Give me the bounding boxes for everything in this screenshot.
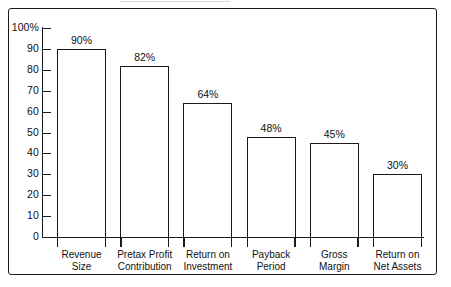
bar-value-label: 48% <box>247 123 296 134</box>
y-axis-tick <box>43 174 51 175</box>
y-axis-tick <box>43 70 51 71</box>
category-divider-tick <box>120 237 121 247</box>
category-label-line: Period <box>239 261 304 273</box>
bar-value-label: 45% <box>310 129 359 140</box>
y-axis-tick <box>43 112 51 113</box>
category-divider-tick <box>105 237 106 247</box>
category-label: RevenueSize <box>49 249 114 273</box>
category-divider-tick <box>231 237 232 247</box>
x-axis-line <box>42 237 424 238</box>
y-axis-tick-label-text: 100% <box>12 22 39 32</box>
category-label-line: Gross <box>302 249 367 261</box>
category-divider-tick <box>310 237 311 247</box>
y-axis-tick <box>43 216 51 217</box>
bar <box>373 174 422 237</box>
y-axis-tick-label-text: 80 <box>27 64 39 74</box>
y-axis-tick <box>43 153 51 154</box>
chart-screenshot: 0102030405060708090100% 90%82%64%48%45%3… <box>0 0 451 287</box>
category-label-line: Payback <box>239 249 304 261</box>
bar <box>183 103 232 237</box>
bar-value-label: 90% <box>57 35 106 46</box>
category-label: Return onNet Assets <box>365 249 430 273</box>
category-divider-tick <box>421 237 422 247</box>
bar <box>310 143 359 237</box>
category-label-line: Revenue <box>49 249 114 261</box>
bar <box>120 66 169 237</box>
category-label-line: Return on <box>175 249 240 261</box>
y-axis-tick <box>43 91 51 92</box>
y-axis-tick-label-text: 10 <box>27 210 39 220</box>
category-label-line: Size <box>49 261 114 273</box>
bar-value-label: 82% <box>120 52 169 63</box>
category-divider-tick <box>357 237 358 247</box>
y-axis-tick-label-text: 20 <box>27 189 39 199</box>
y-axis-tick <box>43 28 51 29</box>
category-divider-tick <box>168 237 169 247</box>
category-label-line: Margin <box>302 261 367 273</box>
y-axis-tick-label-text: 70 <box>27 85 39 95</box>
category-label: Pretax ProfitContribution <box>112 249 177 273</box>
y-axis-tick <box>43 195 51 196</box>
bar-value-label: 30% <box>373 160 422 171</box>
y-axis-tick-label-text: 50 <box>27 127 39 137</box>
category-label-line: Return on <box>365 249 430 261</box>
category-divider-tick <box>183 237 184 247</box>
category-label-line: Investment <box>175 261 240 273</box>
bar-value-label: 64% <box>183 89 232 100</box>
category-label: Return onInvestment <box>175 249 240 273</box>
y-axis-tick-label-text: 30 <box>27 168 39 178</box>
category-divider-tick <box>57 237 58 247</box>
y-axis-tick-label-text: 60 <box>27 106 39 116</box>
y-axis-tick <box>43 237 51 238</box>
y-axis-tick-label-text: 40 <box>27 147 39 157</box>
category-label-line: Net Assets <box>365 261 430 273</box>
bar-chart-plot: 0102030405060708090100% 90%82%64%48%45%3… <box>0 0 451 287</box>
category-label: PaybackPeriod <box>239 249 304 273</box>
category-label: GrossMargin <box>302 249 367 273</box>
category-label-line: Contribution <box>112 261 177 273</box>
category-label-line: Pretax Profit <box>112 249 177 261</box>
category-divider-tick <box>247 237 248 247</box>
y-axis-tick <box>43 133 51 134</box>
y-axis-tick-label-text: 0 <box>33 231 39 241</box>
y-axis-tick <box>43 49 51 50</box>
category-divider-tick <box>294 237 295 247</box>
y-axis-tick-label-text: 90 <box>27 43 39 53</box>
bar <box>57 49 106 237</box>
category-divider-tick <box>373 237 374 247</box>
bar <box>247 137 296 237</box>
